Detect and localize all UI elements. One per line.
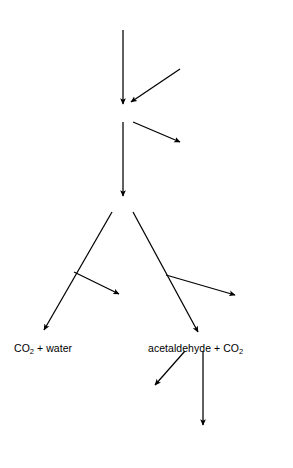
arrow-pyruvic-to-anaerobic	[133, 212, 198, 332]
flow-chart-diagram: CO2 + wateracetaldehyde + CO2	[0, 0, 293, 468]
subscript: 2	[30, 347, 34, 356]
node-co2-water: CO2 + water	[14, 342, 72, 357]
arrow-phosphate-added-to-pga	[131, 69, 180, 102]
arrow-aerobic-high-yield	[74, 272, 119, 294]
arrow-pyruvic-to-aerobic	[44, 212, 112, 330]
arrow-pga-to-phosphate-lost	[133, 122, 180, 142]
arrow-anaerobic-low-yield	[166, 275, 235, 295]
subscript: 2	[239, 347, 243, 356]
node-acetaldehyde: acetaldehyde + CO2	[148, 342, 243, 357]
diagram-edges-layer	[0, 0, 293, 468]
